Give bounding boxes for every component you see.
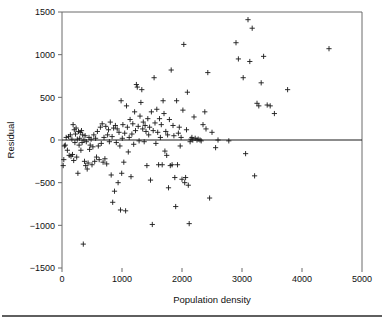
x-tick-label: 2000: [172, 274, 192, 284]
y-tick-label: 1500: [35, 7, 55, 17]
y-tick-label: 1000: [35, 50, 55, 60]
x-tick-label: 1000: [112, 274, 132, 284]
y-tick-label: −1500: [30, 263, 55, 273]
y-axis-label: Residual: [5, 122, 16, 159]
residual-scatter-plot: −1500−1000−500050010001500 0100020003000…: [0, 0, 384, 322]
y-tick-label: −500: [35, 178, 55, 188]
x-tick-label: 0: [59, 274, 64, 284]
y-tick-label: −1000: [30, 221, 55, 231]
x-tick-label: 4000: [292, 274, 312, 284]
y-tick-label: 0: [50, 135, 55, 145]
x-axis-label: Population density: [173, 294, 251, 305]
x-tick-label: 3000: [232, 274, 252, 284]
x-tick-label: 5000: [352, 274, 372, 284]
y-tick-label: 500: [40, 93, 55, 103]
